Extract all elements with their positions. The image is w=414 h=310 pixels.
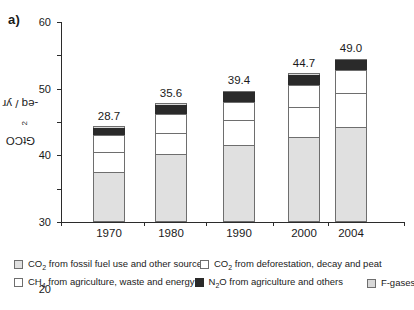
y-axis-tick: 20 — [57, 155, 61, 156]
x-axis-tick — [144, 222, 145, 226]
legend-swatch-co2foss — [14, 260, 23, 269]
bar-group[interactable]: 35.61980 — [155, 22, 187, 222]
stacked-bar[interactable] — [93, 126, 125, 222]
y-axis-line — [61, 22, 62, 222]
chart-legend: CO2 from fossil fuel use and other sourc… — [14, 256, 406, 292]
x-axis-tick-label: 1990 — [226, 228, 252, 240]
bar-segment-co2foss[interactable] — [335, 127, 367, 222]
legend-swatch-fgas — [367, 279, 376, 288]
stacked-bar[interactable] — [288, 73, 320, 222]
bar-segment-ch4[interactable] — [335, 70, 367, 93]
x-axis-tick-label: 2000 — [291, 228, 317, 240]
bar-segment-ch4[interactable] — [288, 85, 320, 107]
y-axis-tick: 60 — [57, 22, 61, 23]
legend-item-fgas[interactable]: F-gases — [367, 278, 414, 288]
stacked-bar[interactable] — [223, 91, 255, 222]
bar-total-label: 49.0 — [340, 43, 362, 55]
legend-item-n2o[interactable]: N2O from agriculture and others — [195, 277, 343, 289]
y-axis-tick: 50 — [57, 55, 61, 56]
x-axis-line — [61, 222, 404, 223]
bar-segment-ch4[interactable] — [155, 114, 187, 133]
legend-swatch-ch4 — [14, 278, 23, 287]
bar-segment-ch4[interactable] — [223, 102, 255, 120]
bar-group[interactable]: 39.41990 — [223, 22, 255, 222]
x-axis-tick — [404, 222, 405, 226]
figure-panel-a: a) GtCO2-eq / yr 010203040506028.7197035… — [0, 0, 414, 310]
x-axis-tick-label: 1970 — [96, 228, 122, 240]
bar-total-label: 39.4 — [228, 75, 250, 87]
x-axis-tick — [61, 222, 62, 226]
bar-segment-co2def[interactable] — [155, 133, 187, 154]
bar-segment-n2o[interactable] — [155, 105, 187, 114]
bar-segment-co2foss[interactable] — [288, 137, 320, 222]
legend-item-ch4[interactable]: CH4 from agriculture, waste and energy — [14, 277, 195, 289]
stacked-bar[interactable] — [155, 103, 187, 222]
y-axis-tick: 40 — [57, 89, 61, 90]
bar-segment-co2def[interactable] — [335, 93, 367, 126]
bar-segment-n2o[interactable] — [93, 128, 125, 135]
y-axis-title-post: -eq / yr — [3, 97, 39, 109]
x-axis-tick — [206, 222, 207, 226]
plot-area: 010203040506028.7197035.6198039.4199044.… — [61, 22, 404, 222]
panel-letter: a) — [8, 12, 20, 27]
y-axis-title-sub: 2 — [20, 121, 29, 125]
legend-label-ch4: CH4 from agriculture, waste and energy — [28, 277, 195, 289]
y-axis-title-pre: GtCO — [6, 134, 35, 146]
bar-segment-co2foss[interactable] — [93, 172, 125, 222]
bar-segment-co2def[interactable] — [223, 120, 255, 145]
bar-segment-co2def[interactable] — [288, 107, 320, 137]
y-axis-tick-label: 50 — [39, 83, 51, 94]
y-axis-tick-label: 60 — [39, 17, 51, 28]
y-axis-title: GtCO2-eq / yr — [14, 60, 30, 180]
x-axis-tick-label: 1980 — [158, 228, 184, 240]
legend-label-co2def: CO2 from deforestation, decay and peat — [214, 259, 382, 271]
legend-label-co2foss: CO2 from fossil fuel use and other sourc… — [28, 259, 207, 271]
bar-segment-n2o[interactable] — [335, 60, 367, 70]
legend-row: CH4 from agriculture, waste and energyN2… — [14, 274, 406, 292]
bar-segment-co2foss[interactable] — [155, 154, 187, 222]
legend-swatch-n2o — [195, 278, 204, 287]
legend-item-co2foss[interactable]: CO2 from fossil fuel use and other sourc… — [14, 259, 200, 271]
legend-label-fgas: F-gases — [381, 278, 414, 288]
x-axis-tick-label: 2004 — [338, 228, 364, 240]
bar-group[interactable]: 28.71970 — [93, 22, 125, 222]
y-axis-tick-label: 30 — [39, 217, 51, 228]
bar-total-label: 28.7 — [98, 111, 120, 123]
x-axis-tick — [328, 222, 329, 226]
bar-group[interactable]: 49.02004 — [335, 22, 367, 222]
bar-group[interactable]: 44.72000 — [288, 22, 320, 222]
bar-total-label: 44.7 — [293, 58, 315, 70]
legend-item-co2def[interactable]: CO2 from deforestation, decay and peat — [200, 259, 382, 271]
x-axis-tick — [273, 222, 274, 226]
bar-segment-co2foss[interactable] — [223, 145, 255, 222]
y-axis-tick: 30 — [57, 122, 61, 123]
bar-total-label: 35.6 — [160, 88, 182, 100]
bar-segment-n2o[interactable] — [288, 75, 320, 86]
bar-segment-co2def[interactable] — [93, 152, 125, 172]
stacked-bar[interactable] — [335, 59, 367, 222]
y-axis-tick: 10 — [57, 189, 61, 190]
legend-swatch-co2def — [200, 260, 209, 269]
bar-segment-n2o[interactable] — [223, 92, 255, 102]
bar-segment-ch4[interactable] — [93, 135, 125, 152]
legend-label-n2o: N2O from agriculture and others — [209, 277, 343, 289]
y-axis-tick-label: 40 — [39, 150, 51, 161]
legend-row: CO2 from fossil fuel use and other sourc… — [14, 256, 406, 274]
